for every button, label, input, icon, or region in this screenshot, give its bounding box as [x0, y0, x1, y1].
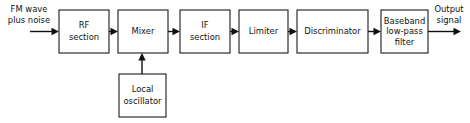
block-discriminator-label: Discriminator — [304, 26, 361, 36]
connection-limiter-to-discriminator — [288, 28, 297, 35]
block-discriminator[interactable]: Discriminator — [297, 10, 368, 53]
block-rf-section-label-line-2: section — [69, 32, 99, 42]
block-local-oscillator-label-line-2: oscillator — [123, 96, 162, 106]
input-signal-label-line-2: plus noise — [8, 15, 50, 25]
block-mixer[interactable]: Mixer — [118, 10, 168, 53]
block-local-oscillator-label-line-1: Local — [132, 84, 154, 94]
block-baseband-low-pass-filter[interactable]: Baseband low-pass filter — [381, 10, 428, 53]
block-local-oscillator[interactable]: Local oscillator — [119, 74, 166, 117]
fm-receiver-block-diagram: RF section Mixer IF section Limiter Disc… — [0, 0, 470, 123]
connection-if-to-limiter — [230, 28, 239, 35]
block-mixer-label: Mixer — [132, 26, 155, 36]
block-limiter-label: Limiter — [249, 26, 279, 36]
block-rf-section[interactable]: RF section — [59, 10, 109, 53]
block-if-section-label-line-2: section — [190, 32, 220, 42]
block-baseband-label-line-3: filter — [395, 37, 415, 47]
connection-baseband-to-output — [428, 28, 461, 35]
block-if-section-label-line-1: IF — [201, 20, 208, 30]
block-limiter[interactable]: Limiter — [239, 10, 288, 53]
block-rf-section-label-line-1: RF — [79, 20, 90, 30]
connection-input-to-rf — [30, 28, 59, 35]
diagram-canvas: RF section Mixer IF section Limiter Disc… — [0, 0, 470, 123]
block-if-section[interactable]: IF section — [180, 10, 230, 53]
connection-mixer-to-if — [168, 28, 180, 35]
block-baseband-label-line-1: Baseband — [384, 16, 425, 26]
connection-discriminator-to-baseband — [368, 28, 381, 35]
output-signal-label-line-2: signal — [437, 15, 462, 25]
connection-rf-to-mixer — [109, 28, 118, 35]
output-signal-label-line-1: Output — [434, 4, 464, 14]
connection-oscillator-to-mixer — [138, 53, 145, 74]
output-signal-label: Output signal — [434, 4, 464, 25]
input-signal-label: FM wave plus noise — [8, 4, 50, 25]
block-baseband-label-line-2: low-pass — [386, 26, 423, 36]
input-signal-label-line-1: FM wave — [11, 4, 48, 14]
